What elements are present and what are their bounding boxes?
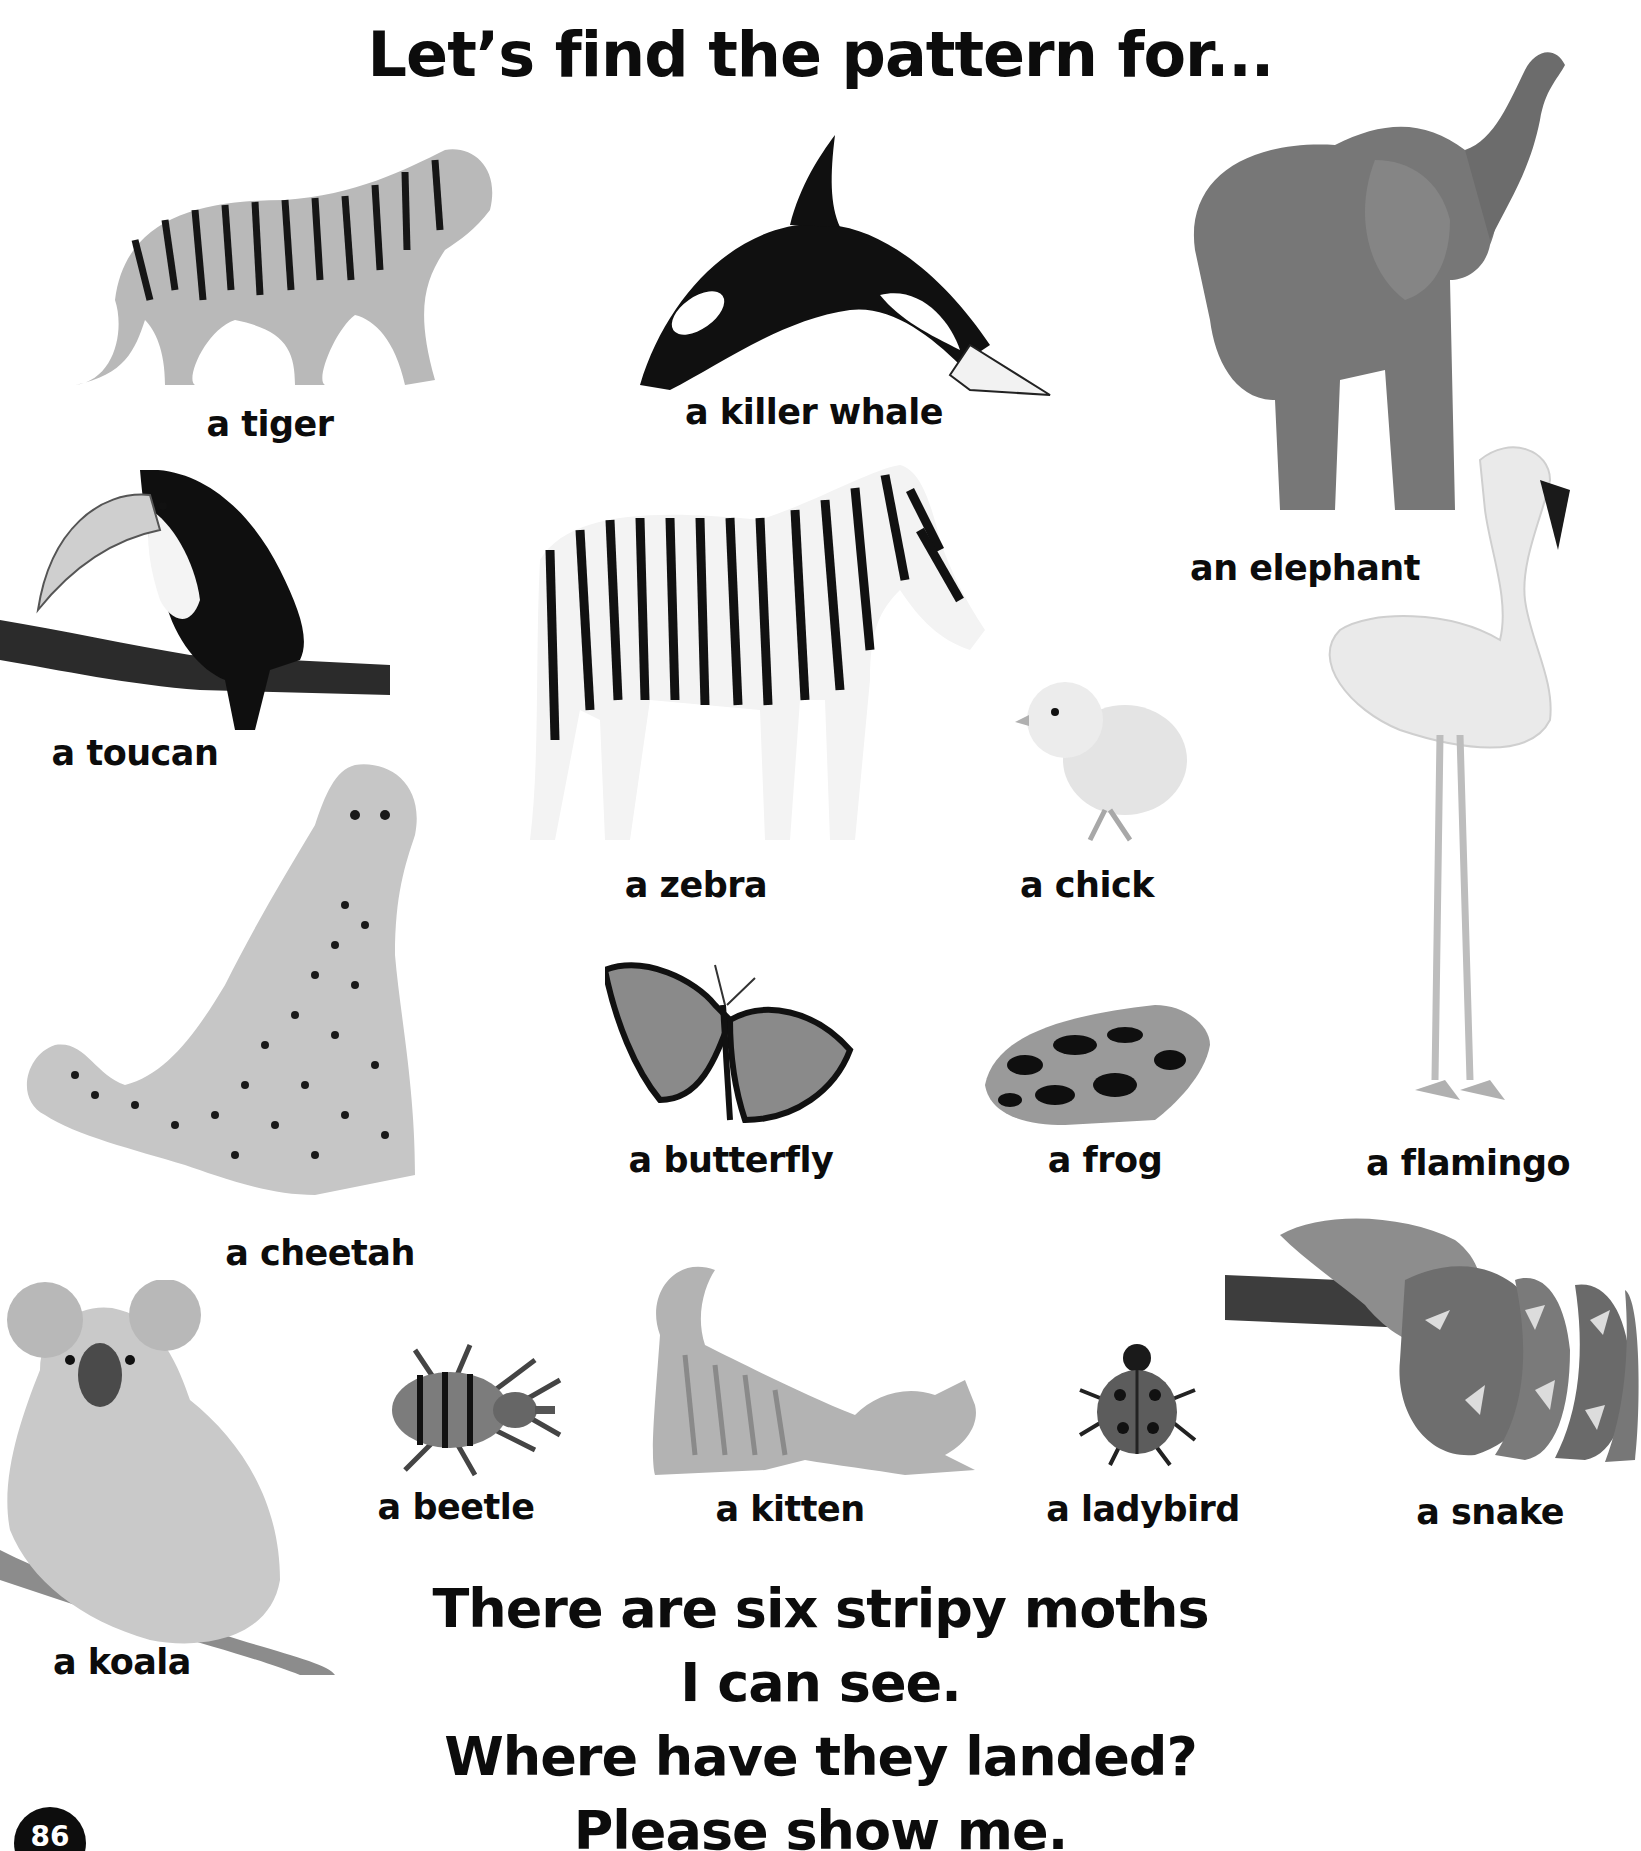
label-snake: a snake <box>1416 1492 1564 1532</box>
label-chick: a chick <box>1020 865 1154 905</box>
flamingo-image <box>1310 440 1610 1130</box>
tiger-icon <box>55 130 495 400</box>
chick-image <box>1015 670 1190 850</box>
cheetah-icon <box>15 755 465 1205</box>
butterfly-image <box>605 960 855 1125</box>
ladybird-icon <box>1075 1340 1200 1470</box>
rhyme-line-2: I can see. <box>0 1646 1641 1720</box>
label-ladybird: a ladybird <box>1046 1489 1240 1529</box>
rhyme-line-1: There are six stripy moths <box>0 1572 1641 1646</box>
flamingo-icon <box>1310 440 1610 1130</box>
butterfly-icon <box>605 960 855 1125</box>
snake-image <box>1225 1210 1641 1485</box>
tiger-image <box>55 130 495 400</box>
label-flamingo: a flamingo <box>1366 1143 1570 1183</box>
zebra-icon <box>510 460 990 860</box>
label-zebra: a zebra <box>625 865 767 905</box>
label-kitten: a kitten <box>715 1489 864 1529</box>
chick-icon <box>1015 670 1190 850</box>
killer-whale-image <box>630 135 1060 405</box>
cheetah-image <box>15 755 465 1205</box>
zebra-image <box>510 460 990 860</box>
snake-icon <box>1225 1210 1641 1485</box>
label-cheetah: a cheetah <box>225 1233 415 1273</box>
label-tiger: a tiger <box>206 404 333 444</box>
label-frog: a frog <box>1048 1140 1162 1180</box>
kitten-image <box>635 1255 995 1485</box>
frog-image <box>985 1005 1215 1130</box>
beetle-image <box>375 1340 575 1480</box>
rhyme-line-4: Please show me. <box>0 1794 1641 1851</box>
label-butterfly: a butterfly <box>629 1140 834 1180</box>
kitten-icon <box>635 1255 995 1485</box>
frog-icon <box>985 1005 1215 1130</box>
ladybird-image <box>1075 1340 1200 1470</box>
book-page: Let’s find the pattern for... a tiger a … <box>0 0 1641 1851</box>
rhyme-line-3: Where have they landed? <box>0 1720 1641 1794</box>
toucan-image <box>0 470 395 740</box>
rhyme-text: There are six stripy moths I can see. Wh… <box>0 1572 1641 1851</box>
label-killer-whale: a killer whale <box>685 392 943 432</box>
killer-whale-icon <box>630 135 1060 405</box>
beetle-icon <box>375 1340 575 1480</box>
label-beetle: a beetle <box>378 1487 535 1527</box>
toucan-icon <box>0 470 395 740</box>
